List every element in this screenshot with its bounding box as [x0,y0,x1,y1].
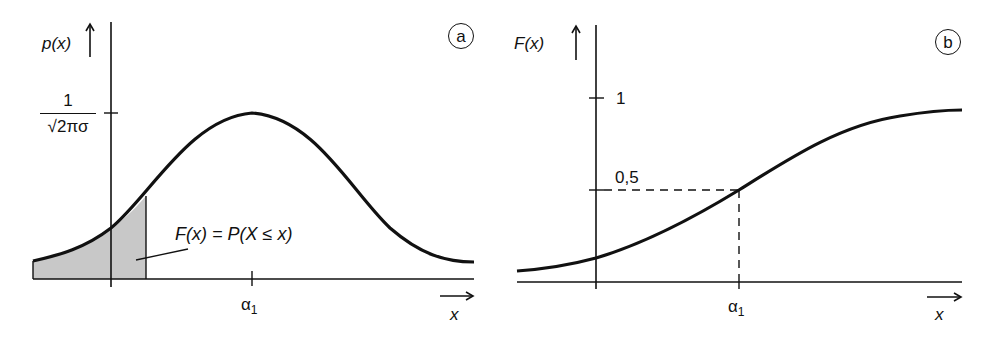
y-tick-label-a: 1 √2πσ [40,92,96,135]
panel-b-cdf-plot [517,25,962,297]
y-axis-label-a: p(x) [42,35,71,52]
x-axis-label-b: x [935,306,944,323]
panel-b-badge: b [935,29,961,55]
x-axis-label-a: x [450,306,459,323]
panel-a-density-plot [33,22,474,296]
alpha-subscript: 1 [251,303,258,317]
y-axis-label-b: F(x) [514,35,544,52]
diagram-canvas [0,0,999,344]
alpha-subscript: 1 [738,305,745,319]
alpha-symbol: α [241,295,251,314]
x-tick-label-b: α1 [728,298,745,318]
tick-denominator: √2πσ [40,114,96,135]
tick-numerator: 1 [40,92,96,113]
x-tick-label-a: α1 [241,296,258,316]
alpha-symbol: α [728,297,738,316]
cdf-annotation: F(x) = P(X ≤ x) [175,225,292,243]
panel-a-badge: a [448,23,474,49]
y-tick-label-half: 0,5 [615,169,639,186]
y-tick-label-1: 1 [616,90,625,107]
